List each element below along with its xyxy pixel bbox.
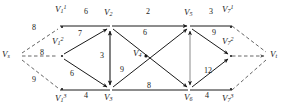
node-label-v12: V12 bbox=[52, 36, 64, 46]
node-label-v3: V3 bbox=[104, 93, 113, 102]
node-dot-v73 bbox=[230, 88, 232, 90]
edge-weight-v12-v3: 6 bbox=[70, 70, 74, 78]
edge-weight-v2-v6: 6 bbox=[143, 29, 147, 37]
node-label-v72: V72 bbox=[222, 36, 234, 46]
edge-weight-v3-v5: 9 bbox=[120, 66, 124, 74]
node-label-v5: V5 bbox=[184, 8, 193, 17]
edge-weight-v5-v71: 3 bbox=[209, 8, 213, 16]
edge-weight-v6-v73: 4 bbox=[205, 92, 209, 100]
node-label-v11: V11 bbox=[55, 4, 67, 14]
node-dot-v72 bbox=[230, 55, 232, 57]
edge-weight-vs-v12: 8 bbox=[40, 49, 44, 57]
edge-weight-v6-v72: 12 bbox=[204, 67, 212, 75]
node-label-v2: V2 bbox=[104, 8, 113, 17]
node-dot-v12 bbox=[61, 55, 63, 57]
node-label-v13: V13 bbox=[55, 93, 67, 103]
node-label-vs: Vs bbox=[2, 50, 10, 59]
edge-weight-vs-v11: 8 bbox=[32, 24, 36, 32]
edge-weight-v2-v3: 3 bbox=[100, 52, 104, 60]
node-label-v4: V4 bbox=[133, 49, 142, 58]
node-dot-v4 bbox=[144, 54, 147, 57]
edge-weight-v5-v72: 9 bbox=[212, 29, 216, 37]
edge-v73-vt bbox=[232, 60, 266, 90]
edge-weight-v12-v2: 7 bbox=[78, 30, 82, 38]
node-label-v71: V71 bbox=[222, 4, 234, 14]
edge-weight-vs-v13: 9 bbox=[32, 76, 36, 84]
edge-v71-vt bbox=[232, 26, 266, 52]
edge-weight-v3-v6: 8 bbox=[147, 82, 151, 90]
node-label-vt: Vt bbox=[270, 50, 277, 59]
node-dot-v71 bbox=[230, 26, 232, 28]
node-label-v6: V6 bbox=[184, 93, 193, 102]
edge-weight-v13-v3: 4 bbox=[84, 92, 88, 100]
edge-weight-v11-v2: 6 bbox=[84, 8, 88, 16]
network-flow-diagram: Vs V11 V12 V13 V2 V3 V4 V5 V6 V71 V72 V7… bbox=[0, 0, 286, 112]
node-dot-v11 bbox=[61, 26, 63, 28]
edge-weight-v2-v5: 2 bbox=[146, 8, 150, 16]
node-dot-v13 bbox=[61, 88, 63, 90]
node-label-v73: V73 bbox=[222, 93, 234, 103]
edge-vs-v13 bbox=[22, 60, 58, 88]
